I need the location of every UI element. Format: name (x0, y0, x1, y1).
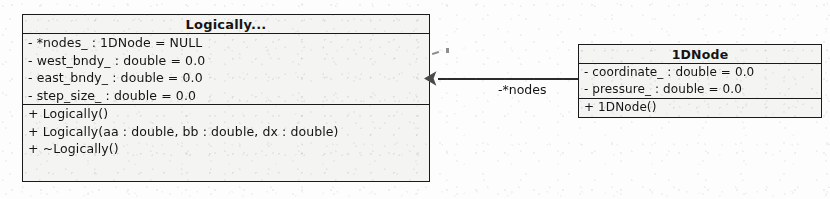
operation-row: + Logically(aa : double, bb : double, dx… (23, 123, 429, 141)
attribute-row: - coordinate_ : double = 0.0 (579, 64, 821, 81)
attribute-row: - step_size_ : double = 0.0 (23, 87, 429, 105)
uml-class-logically[interactable]: Logically... - *nodes_ : 1DNode = NULL -… (22, 14, 430, 182)
class-name-logically: Logically... (23, 15, 429, 33)
attributes-compartment-logically: - *nodes_ : 1DNode = NULL - west_bndy_ :… (23, 33, 429, 104)
diagram-canvas: Logically... - *nodes_ : 1DNode = NULL -… (0, 0, 830, 199)
operation-row: + ~Logically() (23, 140, 429, 158)
operation-row: + Logically() (23, 105, 429, 123)
association-role-label: -*nodes (498, 82, 546, 97)
class-name-1dnode: 1DNode (579, 45, 821, 63)
attributes-compartment-1dnode: - coordinate_ : double = 0.0 - pressure_… (579, 63, 821, 98)
attribute-row: - east_bndy_ : double = 0.0 (23, 69, 429, 87)
association-line (438, 78, 580, 80)
operation-row: + 1DNode() (579, 99, 821, 116)
scan-artifact (446, 48, 449, 53)
attribute-row: - west_bndy_ : double = 0.0 (23, 52, 429, 70)
operations-compartment-logically: + Logically() + Logically(aa : double, b… (23, 104, 429, 158)
scan-artifact (432, 51, 439, 55)
attribute-row: - pressure_ : double = 0.0 (579, 81, 821, 98)
operations-compartment-1dnode: + 1DNode() (579, 98, 821, 116)
uml-class-1dnode[interactable]: 1DNode - coordinate_ : double = 0.0 - pr… (578, 44, 822, 118)
attribute-row: - *nodes_ : 1DNode = NULL (23, 34, 429, 52)
